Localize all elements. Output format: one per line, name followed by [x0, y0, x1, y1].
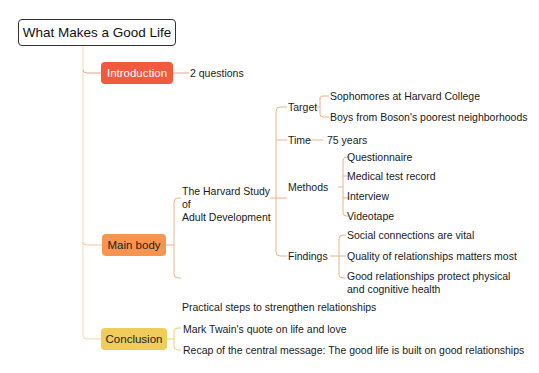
conclusion-child-recap[interactable]: Recap of the central message: The good l…: [183, 344, 524, 357]
findings-child-social[interactable]: Social connections are vital: [347, 229, 474, 242]
topic-findings[interactable]: Findings: [288, 250, 328, 263]
findings-protect-line2: and cognitive health: [347, 283, 510, 296]
topic-methods[interactable]: Methods: [288, 181, 328, 194]
findings-child-protect[interactable]: Good relationships protect physical and …: [347, 270, 510, 296]
target-child-boys[interactable]: Boys from Boson's poorest neighborhoods: [330, 111, 528, 124]
topic-main-body[interactable]: Main body: [102, 234, 166, 256]
topic-practical-steps[interactable]: Practical steps to strengthen relationsh…: [182, 301, 376, 314]
harvard-study-line2: Adult Development: [182, 211, 277, 224]
topic-introduction[interactable]: Introduction: [101, 62, 173, 84]
target-child-sophomores[interactable]: Sophomores at Harvard College: [330, 90, 480, 103]
time-child-75-years[interactable]: 75 years: [327, 134, 367, 147]
topic-target[interactable]: Target: [288, 101, 317, 114]
topic-time[interactable]: Time: [288, 134, 311, 147]
methods-child-questionnaire[interactable]: Questionnaire: [347, 151, 412, 164]
topic-conclusion[interactable]: Conclusion: [101, 328, 167, 350]
conclusion-child-twain[interactable]: Mark Twain's quote on life and love: [183, 323, 347, 336]
findings-protect-line1: Good relationships protect physical: [347, 270, 510, 283]
findings-child-quality[interactable]: Quality of relationships matters most: [347, 250, 517, 263]
methods-child-interview[interactable]: Interview: [347, 190, 389, 203]
root-topic[interactable]: What Makes a Good Life: [18, 19, 176, 46]
intro-child-2-questions[interactable]: 2 questions: [190, 67, 244, 80]
methods-child-medical-record[interactable]: Medical test record: [347, 170, 436, 183]
methods-child-videotape[interactable]: Videotape: [347, 210, 394, 223]
topic-harvard-study[interactable]: The Harvard Study of Adult Development: [182, 185, 277, 224]
harvard-study-line1: The Harvard Study of: [182, 185, 277, 211]
